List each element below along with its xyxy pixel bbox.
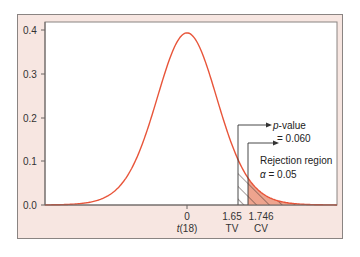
tv-label: TV [226,223,239,234]
y-tick-label-3: 0.3 [23,69,37,80]
y-tick-label-4: 0.4 [23,25,37,36]
rejection-region-label: Rejection region [260,155,332,166]
tv-value-label: 1.65 [222,211,242,222]
y-ticks [41,30,45,205]
x-axis-label: t(18) [177,223,198,234]
t-distribution-chart: 0.0 0.1 0.2 0.3 0.4 0 t(18) 1.65 TV 1.74… [0,0,360,257]
alpha-label: α = 0.05 [260,169,297,180]
p-value-label: p-value [272,120,306,131]
y-tick-label-0: 0.0 [23,200,37,211]
cv-label: CV [254,223,268,234]
cv-value-label: 1.746 [248,211,273,222]
y-tick-label-1: 0.1 [23,156,37,167]
x-tick-label-0: 0 [184,211,190,222]
p-value-amount: = 0.060 [277,133,311,144]
y-tick-label-2: 0.2 [23,113,37,124]
